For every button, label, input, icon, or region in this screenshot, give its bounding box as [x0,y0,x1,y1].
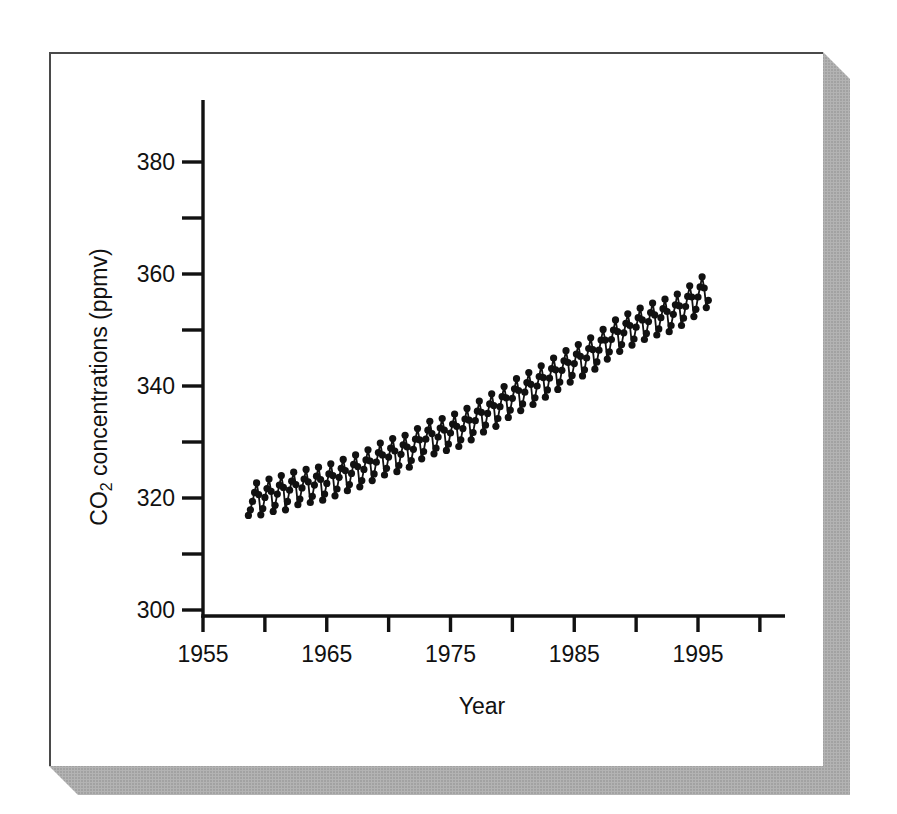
data-point [340,456,347,463]
data-point [608,336,615,343]
data-point [554,386,561,393]
y-tick-label: 300 [137,597,175,623]
data-point [641,336,648,343]
data-point [331,492,338,499]
data-point [643,330,650,337]
data-point [540,374,547,381]
data-point [645,318,652,325]
axes [201,100,785,618]
data-point [336,474,343,481]
data-point [377,440,384,447]
y-axis-title-prefix: CO [86,491,112,526]
data-point [327,460,334,467]
data-point [567,379,574,386]
data-point [292,481,299,488]
data-point [259,505,266,512]
data-point [418,455,425,462]
data-point [602,337,609,344]
data-point [657,314,664,321]
data-point [517,407,524,414]
data-point [529,401,536,408]
data-point [311,482,318,489]
data-point [319,497,326,504]
data-point [591,366,598,373]
data-point [257,511,264,518]
data-point [558,367,565,374]
data-point [509,395,516,402]
data-point [307,499,314,506]
data-point [422,436,429,443]
data-point [651,311,658,318]
data-point [655,325,662,332]
data-point [630,335,637,342]
data-point [593,358,600,365]
data-point [637,305,644,312]
y-axis-title-suffix: concentrations (ppmv) [86,248,112,482]
y-tick-label: 380 [137,149,175,175]
data-point [674,291,681,298]
data-point [678,322,685,329]
data-point [441,427,448,434]
data-point [492,423,499,430]
data-point [296,496,303,503]
co2-data-series [245,273,712,519]
data-point [364,446,371,453]
data-point [445,441,452,448]
data-point [628,342,635,349]
data-point [542,394,549,401]
y-tick-label: 340 [137,373,175,399]
data-point [451,410,458,417]
data-point [348,470,355,477]
data-point [701,284,708,291]
data-point [478,409,485,416]
data-point [404,443,411,450]
data-point [670,311,677,318]
data-point [435,433,442,440]
data-point [527,381,534,388]
data-point [552,366,559,373]
data-point [432,445,439,452]
axis-ticks [182,162,760,632]
data-point [457,436,464,443]
data-point [274,491,281,498]
x-axis-title: Year [459,693,506,719]
data-point [272,502,279,509]
data-point [247,506,254,513]
data-point [682,303,689,310]
data-point [443,447,450,454]
data-point [261,494,268,501]
data-point [501,383,508,390]
data-point [321,491,328,498]
data-point [303,466,310,473]
data-point [525,369,532,376]
data-point [626,322,633,329]
data-point [402,432,409,439]
data-point [342,467,349,474]
data-point [569,372,576,379]
figure-page: 30032034036038019551965197519851995 Year… [49,52,823,766]
data-point [624,310,631,317]
data-point [395,462,402,469]
x-tick-label: 1965 [301,641,352,667]
data-point [428,430,435,437]
data-point [406,464,413,471]
y-tick-label: 360 [137,261,175,287]
data-point [513,375,520,382]
data-point [282,506,289,513]
data-point [571,360,578,367]
data-point [494,415,501,422]
axis-tick-labels: 30032034036038019551965197519851995 [137,149,724,667]
data-point [476,398,483,405]
data-point [507,407,514,414]
x-tick-label: 1995 [672,641,723,667]
data-point [426,418,433,425]
data-point [323,480,330,487]
data-point [255,491,262,498]
data-point [515,387,522,394]
data-point [463,405,470,412]
data-point [397,451,404,458]
data-point [649,300,656,307]
data-point [616,348,623,355]
data-point [344,487,351,494]
data-point [455,443,462,450]
